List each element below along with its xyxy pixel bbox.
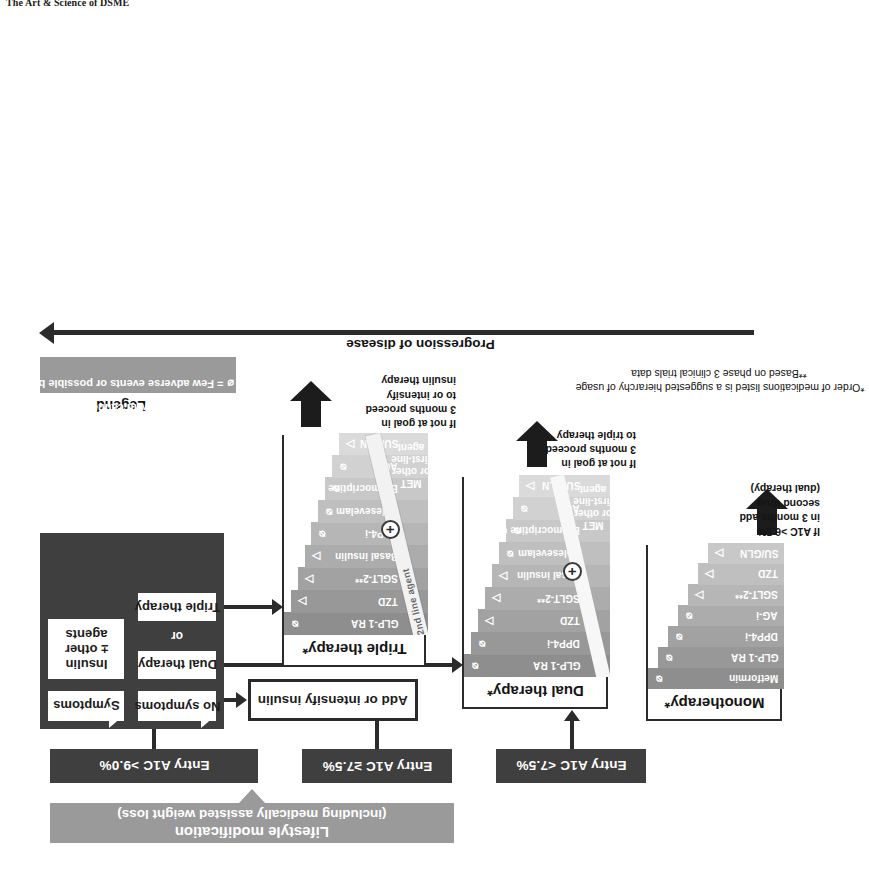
mono-note-l3: second drug [710,496,820,510]
drug-column: TZD△ [698,563,784,584]
drug-column: AG-i⌀ [678,605,784,626]
branch-or-label-wrap: or [138,625,216,647]
few-adverse-events-icon: ⌀ [517,505,530,512]
insulin-box[interactable]: Insulin ± other agents [48,619,124,679]
drug-name-label: SU/GLN [740,548,778,559]
triple-plus-glyph: + [382,525,398,533]
triple-base-agent-label: MET or other first-line agent [396,433,426,485]
use-with-caution-icon: △ [489,594,502,602]
dual-note-l2: 3 months proceed [526,443,636,457]
entry-a1c-low-bar-2: Entry A1C <7.5% [496,749,646,783]
dual-plus-glyph: + [564,567,580,575]
monotherapy-note: If A1C >6.5% in 3 months add second drug… [710,493,820,539]
dual-plus-icon: + [563,562,582,581]
mono-note-l1: If A1C >6.5% [710,525,820,539]
few-adverse-events-icon: ⌀ [652,675,665,682]
triple-note-l3: to or intensify [346,388,456,402]
drug-name-label: Metformin [729,673,778,684]
drug-name-label: TZD [378,596,398,607]
branch-or-label: or [171,629,183,643]
triple-base-l4: agent [398,441,425,453]
connector-low-arrowhead-icon [564,710,580,721]
legend-caution-text: = Use with caution [84,402,181,414]
use-with-caution-icon: △ [692,591,705,599]
lifestyle-line2: (including medically assisted weight los… [117,805,386,822]
insulin-line2: ± other [64,642,107,657]
triple-therapy-drug-ramp: GLP-1 RA⌀TZD△SGLT-2**△Basal insulin△DPP4… [284,433,428,635]
connector-branch-to-insulin-arrowhead-icon [236,692,247,708]
use-with-caution-icon: △ [482,617,495,625]
triple-therapy-note: If not at goal in 3 months proceed to or… [346,385,456,431]
triple-note-l1: If not at goal in [346,417,456,431]
entry-a1c-high-label: Entry A1C >9.0% [99,758,209,773]
triple-base-l1: MET [400,477,421,489]
footnote-doublestar: **Based on phase 3 clinical trials data [631,368,807,380]
few-adverse-events-icon: ⌀ [329,485,342,492]
monotherapy-drug-ramp: Metformin⌀GLP-1 RA⌀DPP4-i⌀AG-i⌀SGLT-2**△… [648,543,784,689]
monotherapy-title: Monotherapy* [664,695,764,712]
triple-therapy-up-arrow-icon [290,381,332,427]
use-with-caution-icon: △ [523,482,536,490]
progression-label: Progression of disease [346,338,495,353]
triple-base-l3: first-line [391,453,428,465]
drug-name-label: SGLT-2** [355,573,398,584]
dual-base-agent-label: MET or other first-line agent [578,475,608,527]
dual-base-l4: agent [580,483,607,495]
monotherapy-panel: Monotherapy* Metformin⌀GLP-1 RA⌀DPP4-i⌀A… [646,545,782,721]
branch-dual-therapy-chip[interactable]: Dual therapy [138,651,216,679]
insulin-line3: agents [65,627,107,642]
branch-triple-therapy-chip[interactable]: Triple therapy [138,593,216,621]
triple-note-l2: 3 months proceed [346,403,456,417]
drug-column: Metformin⌀ [648,668,784,689]
mono-note-l4: (dual therapy) [710,482,820,496]
drug-column: DPP4-i⌀ [311,522,428,545]
drug-column: SU/GLN△ [708,543,784,564]
drug-column: GLP-1 RA⌀ [284,612,428,635]
no-symptoms-chip-arrow-icon [201,706,214,728]
dual-base-l1: MET [582,519,603,531]
figure-canvas: Lifestyle modification (including medica… [10,9,510,869]
drug-name-label: DPP4-i [745,631,778,642]
branch-triple-therapy-label: Triple therapy [134,600,219,615]
triple-plus-icon: + [381,520,400,539]
drug-name-label: AG-i [756,610,778,621]
dual-therapy-panel: Dual therapy* GLP-1 RA⌀DPP4-i⌀TZD△SGLT-2… [462,477,608,709]
drug-column: Basal insulin△ [492,564,610,587]
use-with-caution-icon: △ [712,549,725,557]
legend-few-symbol: ⌀ [226,378,233,390]
page-running-head: The Art & Science of DSME [6,0,129,8]
lifestyle-arrowhead-icon [239,789,265,803]
few-adverse-events-icon: ⌀ [468,662,481,669]
drug-name-label: Basal insulin [335,551,398,562]
use-with-caution-icon: △ [343,440,356,448]
legend-caution-symbol: △ [184,402,192,414]
triple-therapy-panel: Triple therapy* GLP-1 RA⌀TZD△SGLT-2**△Ba… [282,435,426,667]
drug-column: SGLT-2**△ [688,584,784,605]
few-adverse-events-icon: ⌀ [672,633,685,640]
legend-caution-line: △ = Use with caution [84,401,192,414]
mono-note-l2: in 3 months add [710,511,820,525]
few-adverse-events-icon: ⌀ [336,463,349,470]
symptoms-chip-arrow-icon [109,706,122,728]
drug-name-label: TZD [758,569,778,580]
legend-few-text: = Few adverse events or possible benefit… [3,378,223,390]
few-adverse-events-icon: ⌀ [510,527,523,534]
drug-name-label: SGLT-2** [537,593,580,604]
use-with-caution-icon: △ [302,575,315,583]
progression-arrowhead-icon [39,322,54,344]
entry-a1c-high-bar: Entry A1C >9.0% [50,749,258,783]
few-adverse-events-icon: ⌀ [475,640,488,647]
use-with-caution-icon: △ [309,552,322,560]
dual-note-l3: to triple therapy [526,428,636,442]
drug-column: GLP-1 RA⌀ [658,647,784,668]
branch-dual-therapy-label: Dual therapy [138,658,217,673]
dual-note-l1: If not at goal in [526,457,636,471]
footnote-doublestar-wrap: **Based on phase 3 clinical trials data [594,367,844,381]
add-or-intensify-insulin-label: Add or intensify insulin [258,691,408,709]
few-adverse-events-icon: ⌀ [662,654,675,661]
progression-arrow-bar [54,330,754,335]
add-or-intensify-insulin-box[interactable]: Add or intensify insulin [248,679,418,721]
few-adverse-events-icon: ⌀ [322,508,335,515]
connector-branch-to-triple [224,605,274,609]
use-with-caution-icon: △ [496,572,509,580]
